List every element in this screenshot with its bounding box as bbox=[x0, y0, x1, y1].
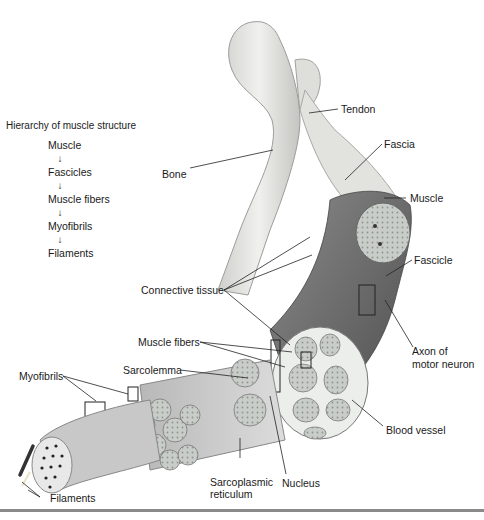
label-sarcoplasmic-line1: Sarcoplasmic bbox=[210, 476, 273, 488]
down-arrow-icon: ↓ bbox=[54, 205, 66, 220]
muscle-structure-illustration bbox=[0, 0, 484, 520]
label-sarcoplasmic-line2: reticulum bbox=[210, 488, 253, 500]
down-arrow-icon: ↓ bbox=[54, 232, 66, 247]
label-fascia: Fascia bbox=[384, 138, 415, 150]
hierarchy-list: Muscle ↓ Fascicles ↓ Muscle fibers ↓ Myo… bbox=[6, 139, 136, 259]
label-nucleus: Nucleus bbox=[282, 477, 320, 489]
hierarchy-title: Hierarchy of muscle structure bbox=[6, 120, 136, 131]
bottom-divider bbox=[0, 509, 484, 512]
label-blood-vessel: Blood vessel bbox=[386, 424, 446, 436]
hierarchy-panel: Hierarchy of muscle structure Muscle ↓ F… bbox=[6, 120, 136, 259]
hierarchy-level-filaments: Filaments bbox=[48, 247, 136, 259]
label-tendon: Tendon bbox=[341, 103, 375, 115]
label-axon-line2: motor neuron bbox=[412, 358, 474, 370]
hierarchy-level-fascicles: Fascicles bbox=[48, 166, 136, 178]
down-arrow-icon: ↓ bbox=[54, 178, 66, 193]
hierarchy-level-myofibrils: Myofibrils bbox=[48, 220, 136, 232]
label-connective-tissue: Connective tissue bbox=[141, 284, 224, 296]
hierarchy-level-muscle-fibers: Muscle fibers bbox=[48, 193, 136, 205]
label-myofibrils: Myofibrils bbox=[19, 370, 63, 382]
label-axon-line1: Axon of bbox=[412, 345, 448, 357]
label-bone: Bone bbox=[162, 168, 187, 180]
muscle-cross-section bbox=[356, 203, 410, 263]
label-sarcolemma: Sarcolemma bbox=[123, 364, 182, 376]
down-arrow-icon: ↓ bbox=[54, 151, 66, 166]
filament-thick bbox=[20, 446, 33, 475]
filament-thin bbox=[22, 472, 30, 486]
label-muscle-fibers: Muscle fibers bbox=[138, 336, 200, 348]
hierarchy-level-muscle: Muscle bbox=[48, 139, 136, 151]
label-filaments: Filaments bbox=[50, 492, 96, 504]
label-fascicle: Fascicle bbox=[414, 254, 453, 266]
label-muscle: Muscle bbox=[410, 192, 443, 204]
